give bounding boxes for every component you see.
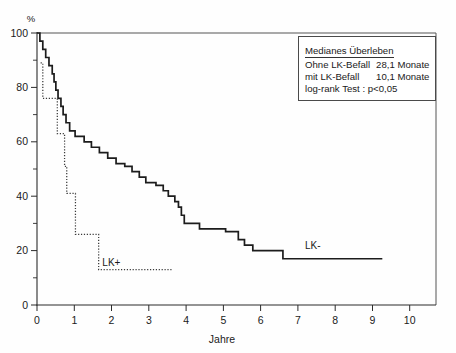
- x-tick-label: 8: [332, 314, 338, 326]
- x-tick-label: 3: [146, 314, 152, 326]
- series-label-lk-negative: LK-: [305, 240, 321, 251]
- annotation-row: Ohne LK-Befall 28,1 Monate: [305, 59, 429, 71]
- survival-curve-lk-positive: [41, 63, 173, 270]
- annotation-row-label: mit LK-Befall: [305, 71, 359, 83]
- x-tick-label: 2: [109, 314, 115, 326]
- median-survival-annotation-box: Medianes Überleben Ohne LK-Befall 28,1 M…: [298, 36, 436, 101]
- kaplan-meier-figure: 100 80 60 40 20 0 0 1 2 3 4 5 6 7 8 9 10…: [0, 0, 456, 353]
- x-axis-title: Jahre: [209, 333, 235, 345]
- y-tick-label: 80: [16, 81, 28, 93]
- x-axis-ticks: [37, 305, 410, 311]
- x-tick-label: 10: [404, 314, 416, 326]
- y-tick-label: 100: [10, 27, 28, 39]
- y-tick-label: 0: [22, 299, 28, 311]
- annotation-footer: log-rank Test : p<0,05: [305, 83, 429, 95]
- x-axis-tick-labels: 0 1 2 3 4 5 6 7 8 9 10: [34, 314, 416, 326]
- y-axis-title: %: [27, 13, 36, 24]
- series-label-lk-positive: LK+: [102, 257, 120, 268]
- y-axis-tick-labels: 100 80 60 40 20 0: [10, 27, 28, 311]
- y-tick-label: 40: [16, 190, 28, 202]
- y-tick-label: 60: [16, 135, 28, 147]
- annotation-row-value: 28,1 Monate: [376, 59, 429, 71]
- x-tick-label: 0: [34, 314, 40, 326]
- x-tick-label: 5: [220, 314, 226, 326]
- annotation-title: Medianes Überleben: [305, 45, 394, 58]
- y-axis-minor-ticks: [33, 60, 37, 278]
- y-tick-label: 20: [16, 244, 28, 256]
- x-tick-label: 7: [295, 314, 301, 326]
- annotation-row-label: Ohne LK-Befall: [305, 59, 370, 71]
- annotation-row-value: 10,1 Monate: [376, 71, 429, 83]
- x-tick-label: 9: [370, 314, 376, 326]
- annotation-row: mit LK-Befall 10,1 Monate: [305, 71, 429, 83]
- x-tick-label: 6: [258, 314, 264, 326]
- x-tick-label: 4: [183, 314, 189, 326]
- x-tick-label: 1: [71, 314, 77, 326]
